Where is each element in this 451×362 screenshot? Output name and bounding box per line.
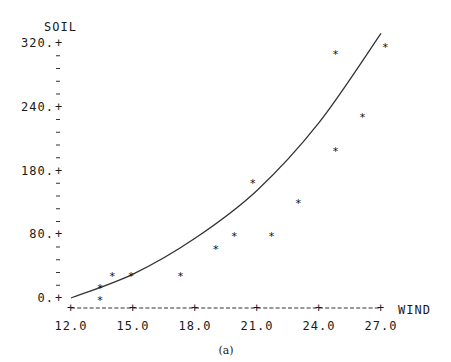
x-tick-mark: + bbox=[129, 301, 137, 315]
data-point: * bbox=[213, 243, 219, 256]
data-point: * bbox=[128, 270, 134, 283]
data-point: * bbox=[382, 41, 388, 54]
fitted-curve bbox=[71, 33, 381, 298]
x-tick-mark: + bbox=[315, 301, 323, 315]
data-point: * bbox=[97, 294, 103, 307]
data-point: * bbox=[178, 270, 184, 283]
x-tick-label: 15.0 bbox=[117, 319, 150, 333]
y-tick-mark: + bbox=[55, 36, 63, 50]
x-axis: +12.0+15.0+18.0+21.0+24.0+27.0 bbox=[55, 301, 398, 333]
y-tick-label: 320. bbox=[21, 36, 54, 50]
y-tick-label: 80. bbox=[29, 227, 54, 241]
data-point: * bbox=[250, 177, 256, 190]
data-point: * bbox=[269, 230, 275, 243]
data-point: * bbox=[360, 111, 366, 124]
x-tick-label: 24.0 bbox=[303, 319, 336, 333]
figure-caption: (a) bbox=[218, 344, 233, 357]
y-tick-label: 0. bbox=[38, 291, 54, 305]
x-tick-mark: + bbox=[67, 301, 75, 315]
x-tick-mark: + bbox=[377, 301, 385, 315]
y-tick-label: 240. bbox=[21, 100, 54, 114]
x-tick-label: 21.0 bbox=[241, 319, 274, 333]
y-tick-mark: + bbox=[55, 100, 63, 114]
x-tick-label: 12.0 bbox=[55, 319, 88, 333]
data-point: * bbox=[333, 145, 339, 158]
data-points: ************** bbox=[97, 41, 388, 307]
scatter-chart: 320.+240.+180.+80.+0.+ +12.0+15.0+18.0+2… bbox=[0, 0, 451, 362]
data-point: * bbox=[296, 197, 302, 210]
x-tick-label: 18.0 bbox=[179, 319, 212, 333]
x-axis-label: WIND bbox=[398, 303, 431, 317]
x-tick-mark: + bbox=[253, 301, 261, 315]
y-tick-mark: + bbox=[55, 227, 63, 241]
y-axis-label: SOIL bbox=[44, 20, 77, 34]
y-tick-mark: + bbox=[55, 164, 63, 178]
data-point: * bbox=[110, 270, 116, 283]
data-point: * bbox=[333, 48, 339, 61]
x-tick-mark: + bbox=[191, 301, 199, 315]
data-point: * bbox=[232, 230, 238, 243]
y-tick-mark: + bbox=[55, 291, 63, 305]
x-tick-label: 27.0 bbox=[365, 319, 398, 333]
y-tick-label: 180. bbox=[21, 164, 54, 178]
y-axis: 320.+240.+180.+80.+0.+ bbox=[21, 36, 63, 305]
